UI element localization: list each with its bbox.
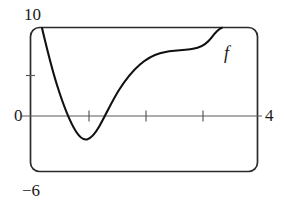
function-graph-figure: 10 −6 0 4 f	[0, 0, 284, 208]
origin-label: 0	[14, 107, 23, 124]
plot-area	[0, 0, 284, 208]
y-axis-min-label: −6	[22, 182, 40, 199]
x-axis-max-label: 4	[265, 107, 274, 124]
function-curve-label: f	[224, 44, 229, 62]
y-axis-max-label: 10	[24, 6, 41, 23]
